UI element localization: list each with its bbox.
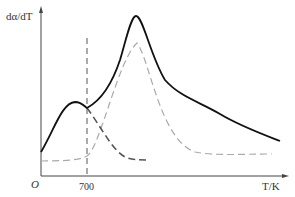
series-low-temp: [87, 108, 150, 160]
origin-label: O: [31, 178, 39, 190]
y-axis-label: dα/dT: [6, 10, 33, 22]
series-total: [41, 16, 280, 152]
chart: dα/dT O 700 T/K: [0, 0, 295, 197]
y-axis-arrow-icon: [39, 6, 43, 13]
x-axis-label: T/K: [262, 180, 280, 192]
x-axis-arrow-icon: [282, 174, 289, 178]
x-tick-700: 700: [79, 181, 94, 192]
plot-svg: dα/dT O 700 T/K: [0, 0, 295, 197]
